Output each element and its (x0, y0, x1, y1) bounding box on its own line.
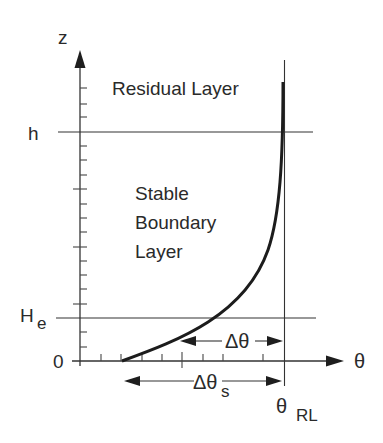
He-label: H e (20, 305, 46, 333)
arrow-right-icon (267, 336, 283, 346)
residual-layer-label: Residual Layer (112, 78, 239, 99)
svg-text:Layer: Layer (135, 241, 183, 262)
svg-text:s: s (221, 382, 230, 401)
theta-axis-arrow-icon (326, 356, 344, 367)
svg-text:Boundary: Boundary (135, 212, 217, 233)
z-axis (75, 50, 86, 366)
delta-theta-label: Δθ (225, 330, 249, 352)
z-axis-label: z (58, 27, 68, 48)
boundary-layer-diagram: z θ h H (0, 0, 383, 443)
theta-axis (72, 356, 344, 367)
theta-axis-label: θ (354, 350, 365, 372)
svg-text:RL: RL (296, 406, 318, 425)
svg-text:Δθ: Δθ (193, 371, 217, 393)
svg-text:e: e (37, 314, 46, 333)
arrow-right-icon (266, 376, 282, 386)
arrow-left-icon (124, 376, 140, 386)
svg-text:H: H (20, 305, 34, 326)
stable-boundary-layer-label: Stable Boundary Layer (135, 183, 217, 262)
h-label: h (28, 123, 39, 144)
zero-label: 0 (53, 351, 64, 372)
svg-text:Stable: Stable (135, 183, 189, 204)
theta-rl-label: θ RL (276, 395, 318, 425)
delta-theta-s-label: Δθ s (193, 371, 230, 401)
svg-text:θ: θ (276, 395, 287, 417)
z-axis-arrow-icon (75, 50, 86, 68)
